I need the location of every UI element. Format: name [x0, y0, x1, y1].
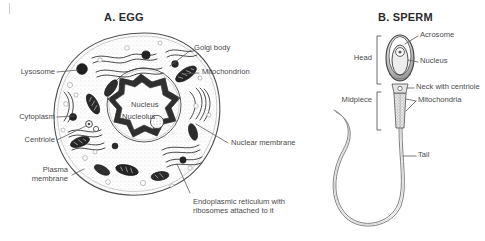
label-tail: Tail — [418, 151, 429, 160]
label-nucleus-egg: Nucleus — [131, 101, 158, 110]
figure-canvas: A. EGG B. SPERM — [0, 0, 485, 241]
label-endoplasmic-reticulum: Endoplasmic reticulum with ribosomes att… — [193, 198, 297, 215]
label-acrosome: Acrosome — [420, 31, 454, 40]
label-neck-with-centriole: Neck with centriole — [416, 83, 480, 92]
centriole-dot — [398, 86, 402, 90]
label-nuclear-membrane: Nuclear membrane — [231, 139, 296, 148]
label-golgi-body: Golgi body — [194, 44, 230, 53]
label-centriole: Centriole — [8, 136, 55, 145]
sperm-head — [386, 35, 414, 81]
sperm-midpiece — [394, 93, 406, 128]
sperm-brackets — [377, 36, 381, 130]
label-plasma-membrane-line2: membrane — [4, 175, 68, 184]
sperm-drawing — [333, 35, 418, 226]
sperm-tail — [333, 110, 404, 226]
label-midpiece: Midpiece — [326, 96, 372, 105]
label-mitochondria: Mitochondria — [418, 96, 461, 105]
label-cytoplasm: Cytoplasm — [2, 113, 55, 122]
label-nucleolus: Nucleolus — [122, 113, 155, 122]
sperm-neck — [392, 84, 408, 93]
label-head: Head — [336, 54, 372, 63]
label-lysosome: Lysosome — [8, 68, 55, 77]
label-mitochondrion: Mitochondrion — [202, 68, 250, 77]
label-nucleus-sperm: Nucleus — [420, 57, 447, 66]
